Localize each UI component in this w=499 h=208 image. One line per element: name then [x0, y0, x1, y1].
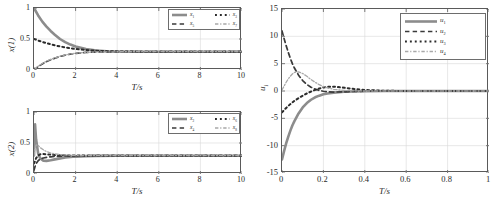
- x-tick-label: 6: [156, 71, 160, 80]
- legend-label: x2: [190, 115, 194, 123]
- legend-item-x8[interactable]: x8: [214, 124, 237, 132]
- legend-swatch-solid: [171, 12, 188, 18]
- y-axis-label-x1: x(1): [6, 25, 16, 65]
- y-tick-label: 1: [7, 107, 30, 116]
- x-axis-label-u: T/s: [281, 186, 488, 196]
- legend-item-x4[interactable]: x4: [171, 124, 194, 132]
- x-tick-label: 0.6: [400, 174, 411, 184]
- legend-swatch-dashdot: [214, 21, 231, 27]
- y-axis-label-x2: x(2): [6, 129, 16, 169]
- x-tick-label: 0.4: [358, 174, 369, 184]
- x-tick-label: 2: [73, 71, 77, 80]
- y-tick-label: -5: [255, 112, 278, 122]
- legend-item-u1[interactable]: u1: [404, 16, 446, 25]
- chart-panel-x2: x(2) T/s x2x6x4x8 024681000.51: [0, 104, 250, 208]
- legend-swatch-dashed: [171, 21, 188, 27]
- x-tick-label: 1: [486, 174, 490, 184]
- legend-item-x5[interactable]: x5: [171, 20, 194, 28]
- chart-panel-x1: x(1) T/s x1x3x5x7 024681000.51: [0, 0, 250, 100]
- y-tick-label: -10: [255, 140, 278, 150]
- y-tick-label: 0: [7, 169, 30, 178]
- legend-label: x7: [233, 20, 237, 28]
- legend-swatch-dotted: [404, 38, 438, 45]
- legend-label: x3: [233, 11, 237, 19]
- legend-label: x1: [190, 11, 194, 19]
- x-tick-label: 10: [237, 71, 245, 80]
- y-tick-label: 0.5: [7, 34, 30, 43]
- x-tick-label: 0.8: [441, 174, 452, 184]
- y-tick-label: 15: [255, 3, 278, 13]
- y-tick-label: 10: [255, 30, 278, 40]
- legend-label: x4: [190, 124, 194, 132]
- x-axis-label-x2: T/s: [33, 186, 241, 196]
- legend-label: u2: [440, 27, 446, 36]
- x-tick-label: 0: [31, 175, 35, 184]
- series-x8: [34, 145, 242, 156]
- legend-item-u2[interactable]: u2: [404, 27, 446, 36]
- series-x7: [34, 52, 242, 70]
- legend-x2[interactable]: x2x6x4x8: [168, 113, 240, 134]
- y-tick-label: 1: [7, 3, 30, 12]
- legend-swatch-dashed: [404, 28, 438, 35]
- legend-item-x2[interactable]: x2: [171, 115, 194, 123]
- legend-label: u1: [440, 16, 446, 25]
- legend-swatch-dotted: [214, 116, 231, 122]
- legend-swatch-solid: [171, 116, 188, 122]
- legend-x1[interactable]: x1x3x5x7: [168, 9, 240, 30]
- legend-item-u3[interactable]: u3: [404, 37, 446, 46]
- legend-label: u3: [440, 37, 446, 46]
- legend-item-x7[interactable]: x7: [214, 20, 237, 28]
- x-tick-label: 2: [73, 175, 77, 184]
- legend-item-u4[interactable]: u4: [404, 47, 446, 56]
- y-tick-label: 0: [255, 85, 278, 95]
- legend-item-x6[interactable]: x6: [214, 115, 237, 123]
- y-tick-label: -15: [255, 167, 278, 177]
- x-tick-label: 4: [114, 71, 118, 80]
- legend-swatch-solid: [404, 18, 438, 25]
- legend-item-x1[interactable]: x1: [171, 11, 194, 19]
- legend-swatch-dashed: [171, 125, 188, 131]
- legend-label: x5: [190, 20, 194, 28]
- legend-swatch-dotted: [214, 12, 231, 18]
- x-tick-label: 0: [279, 174, 283, 184]
- x-tick-label: 6: [156, 175, 160, 184]
- y-tick-label: 0.5: [7, 138, 30, 147]
- x-tick-label: 8: [197, 175, 201, 184]
- series-u4: [282, 72, 489, 91]
- legend-label: x6: [233, 115, 237, 123]
- legend-u[interactable]: u1u2u3u4: [400, 13, 486, 60]
- x-tick-label: 4: [114, 175, 118, 184]
- x-tick-label: 8: [197, 71, 201, 80]
- legend-swatch-dashdot: [214, 125, 231, 131]
- legend-item-x3[interactable]: x3: [214, 11, 237, 19]
- y-tick-label: 5: [255, 58, 278, 68]
- y-tick-label: 0: [7, 65, 30, 74]
- x-tick-label: 10: [237, 175, 245, 184]
- series-u1: [282, 91, 489, 159]
- legend-label: x8: [233, 124, 237, 132]
- x-axis-label-x1: T/s: [33, 82, 241, 92]
- chart-panel-u: ui T/s u1u2u3u4 00.20.40.60.81-15-10-505…: [255, 0, 499, 208]
- legend-swatch-dashdot: [404, 48, 438, 55]
- x-tick-label: 0: [31, 71, 35, 80]
- x-tick-label: 0.2: [317, 174, 328, 184]
- figure-root: x(1) T/s x1x3x5x7 024681000.51 x(2) T/s …: [0, 0, 499, 208]
- legend-label: u4: [440, 47, 446, 56]
